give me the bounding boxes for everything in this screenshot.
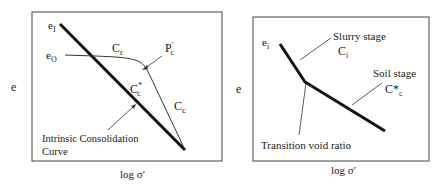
right-cc-star-label: C*c bbox=[385, 82, 403, 98]
right-y-axis-label: e bbox=[236, 82, 241, 96]
left-pc-label: P′c bbox=[165, 41, 174, 57]
transition-void-ratio-label: Transition void ratio bbox=[261, 139, 352, 151]
soil-stage-label: Soil stage bbox=[373, 67, 416, 79]
transition-pointer-line bbox=[299, 83, 306, 135]
icc-pointer-line bbox=[108, 106, 134, 130]
icc-label-line2: Curve bbox=[42, 146, 68, 157]
left-eo-label: eO bbox=[46, 49, 57, 64]
left-cc-label: Cc bbox=[174, 99, 186, 115]
right-diagram: e log σ′ ei Slurry stage Ci Soil stage C… bbox=[236, 17, 429, 176]
icc-label-line1: Intrinsic Consolidation bbox=[42, 133, 139, 144]
bilinear-compression-line bbox=[280, 44, 385, 131]
soil-pointer-line bbox=[352, 83, 382, 105]
ci-label: Ci bbox=[338, 44, 349, 60]
left-cr-label: Cr bbox=[112, 41, 123, 57]
pc-arrowhead bbox=[142, 65, 148, 70]
left-y-axis-label: e bbox=[11, 80, 16, 94]
right-x-axis-label: log σ′ bbox=[331, 164, 356, 176]
left-x-axis-label: log σ′ bbox=[120, 168, 145, 180]
figure: e log σ′ eI eO Cr P′c C*c Cc Intrinsic C… bbox=[0, 0, 446, 186]
left-diagram: e log σ′ eI eO Cr P′c C*c Cc Intrinsic C… bbox=[11, 12, 222, 180]
slurry-stage-label: Slurry stage bbox=[333, 30, 386, 42]
slurry-pointer-line bbox=[300, 38, 331, 60]
left-ei-label: eI bbox=[48, 19, 56, 34]
left-cc-star-label: C*c bbox=[130, 81, 142, 98]
right-ei-label: ei bbox=[262, 36, 270, 51]
